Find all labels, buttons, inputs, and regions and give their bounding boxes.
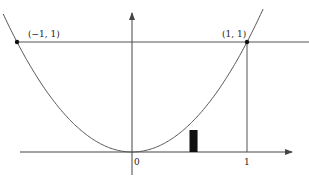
point-right: [245, 40, 249, 44]
point-left: [15, 40, 19, 44]
point-left-label: (−1, 1): [28, 29, 60, 39]
tick-label-1: 1: [244, 157, 250, 167]
area-rectangle: [190, 130, 198, 152]
parabola-diagram: (−1, 1) (1, 1) 0 1: [0, 0, 309, 189]
point-right-label: (1, 1): [222, 29, 246, 39]
tick-label-0: 0: [134, 157, 140, 167]
